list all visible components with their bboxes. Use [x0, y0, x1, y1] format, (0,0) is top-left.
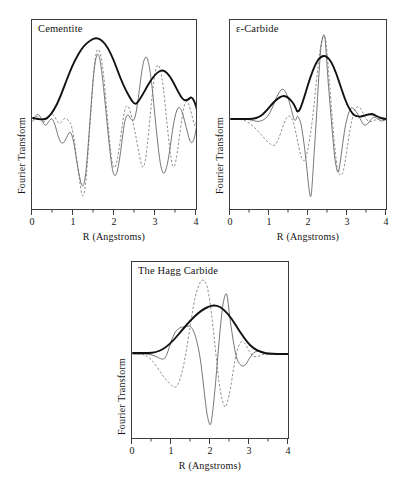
cropped-header-strip: · · · · · · · — [0, 0, 403, 7]
x-tick-label: 3 — [153, 216, 158, 227]
x-tick-label: 1 — [71, 216, 76, 227]
plot-area-hagg-carbide — [131, 261, 289, 439]
x-tick-label: 2 — [112, 216, 117, 227]
panel-title-hagg-carbide: The Hagg Carbide — [138, 265, 218, 276]
x-tick-label: 1 — [267, 216, 272, 227]
panel-title-cementite: Cementite — [38, 23, 83, 34]
x-tick-label: 2 — [306, 216, 311, 227]
curve-fit-epsilon-carbide — [231, 36, 387, 175]
plot-area-epsilon-carbide — [229, 19, 387, 210]
curve-fit-hagg-carbide — [133, 280, 289, 407]
x-tick-label: 0 — [228, 216, 233, 227]
y-axis-label-cementite: Fourier Transform — [16, 117, 27, 194]
curve-magnitude-epsilon-carbide — [231, 56, 387, 119]
panel-hagg-carbide: Fourier Transform The Hagg Carbide — [100, 255, 305, 490]
x-tick-label: 3 — [247, 445, 252, 456]
x-tick-label: 4 — [286, 445, 291, 456]
x-tick-label: 1 — [169, 445, 174, 456]
panel-title-epsilon-carbide: ε-Carbide — [236, 23, 279, 34]
plot-area-cementite — [31, 19, 197, 210]
x-tick-label: 4 — [384, 216, 389, 227]
x-tick-label: 3 — [345, 216, 350, 227]
curve-real-part-cementite — [33, 54, 197, 186]
panel-cementite: Fourier Transform Cementite — [0, 12, 205, 247]
x-axis-label-epsilon-carbide: R (Angstroms) — [229, 231, 387, 242]
y-axis-label-epsilon-carbide: Fourier Transform — [214, 117, 225, 194]
cropped-header-text: · · · · · · · — [145, 0, 196, 4]
x-tick-labels-epsilon-carbide: 0 1 2 3 4 — [229, 216, 387, 228]
curves-cementite — [32, 20, 197, 210]
curve-magnitude-cementite — [33, 38, 197, 119]
x-tick-label: 2 — [208, 445, 213, 456]
x-axis-label-cementite: R (Angstroms) — [31, 231, 197, 242]
curves-hagg-carbide — [132, 262, 289, 439]
x-axis-label-hagg-carbide: R (Angstroms) — [131, 460, 289, 471]
x-tick-label: 0 — [130, 445, 135, 456]
curve-fit-cementite — [33, 49, 197, 195]
y-axis-label-hagg-carbide: Fourier Transform — [116, 358, 127, 435]
x-tick-label: 0 — [30, 216, 35, 227]
curve-real-part-hagg-carbide — [133, 294, 289, 425]
x-tick-labels-cementite: 0 1 2 3 4 — [31, 216, 197, 228]
curves-epsilon-carbide — [230, 20, 387, 210]
figure-container: · · · · · · · Fourier Transform Cementit… — [0, 0, 403, 490]
panel-epsilon-carbide: Fourier Transform ε-Carbide — [198, 12, 403, 247]
x-tick-labels-hagg-carbide: 0 1 2 3 4 — [131, 445, 289, 457]
